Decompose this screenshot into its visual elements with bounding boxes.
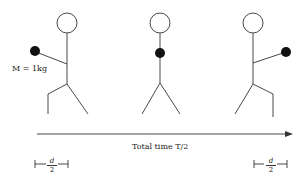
right-d-over-2: d 2 (266, 157, 276, 174)
right-stick-figure (235, 13, 286, 117)
center-mass-ball (155, 48, 165, 58)
right-arm (253, 52, 286, 63)
left-mass-ball (30, 46, 40, 56)
right-head (243, 13, 263, 33)
arrow-head-icon (285, 131, 293, 137)
time-label: Total time T/2 (132, 142, 188, 151)
mass-label: M = 1kg (12, 64, 47, 73)
center-stick-figure (142, 13, 180, 114)
right-mass-ball (281, 47, 291, 57)
left-arm (36, 52, 67, 64)
left-d-over-2: d 2 (47, 157, 57, 174)
center-head (150, 13, 170, 33)
diagram-canvas (0, 0, 305, 184)
left-head (57, 13, 77, 33)
